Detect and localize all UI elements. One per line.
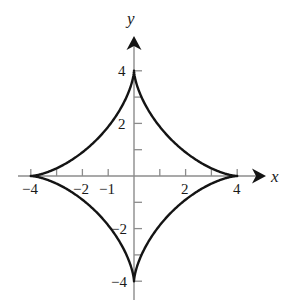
y-axis-name: y (127, 10, 135, 27)
x-axis-name: x (271, 168, 279, 185)
y-tick-label--2: −2 (111, 222, 127, 237)
x-tick-label--1: −1 (99, 182, 115, 197)
astroid-graph-figure: −4 −2 −1 2 4 4 2 −2 −4 x y (0, 0, 290, 307)
x-tick-label--2: −2 (73, 182, 89, 197)
y-tick-label--4: −4 (111, 275, 127, 290)
plot-canvas (0, 0, 290, 307)
x-tick-label--4: −4 (22, 182, 38, 197)
x-tick-label-4: 4 (233, 182, 241, 197)
y-tick-label-4: 4 (118, 64, 126, 79)
y-tick-label-2: 2 (118, 117, 126, 132)
x-tick-label-2: 2 (181, 182, 189, 197)
